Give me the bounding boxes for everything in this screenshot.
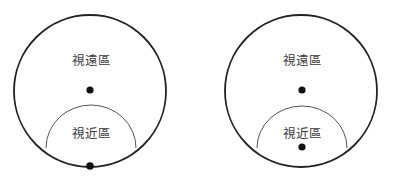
right-far-zone-label: 視遠區 (283, 53, 322, 68)
right-far-center-dot (298, 86, 305, 93)
right-near-center-dot (298, 143, 305, 150)
right-lens-panel: 視遠區 視近區 (225, 15, 377, 167)
right-near-zone-label: 視近區 (283, 126, 322, 141)
left-near-edge-dot (86, 162, 94, 170)
lens-zone-diagram: 視遠區 視近區 視遠區 視近區 (0, 0, 393, 179)
left-far-center-dot (86, 86, 93, 93)
left-near-zone-label: 視近區 (72, 126, 111, 141)
left-lens-panel: 視遠區 視近區 (14, 15, 166, 170)
left-far-zone-label: 視遠區 (72, 53, 111, 68)
